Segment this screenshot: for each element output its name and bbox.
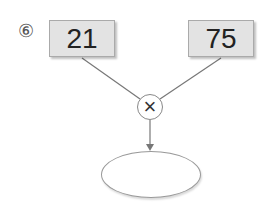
right-operand-box: 75: [188, 20, 254, 57]
multiply-operator-icon: ×: [137, 94, 163, 120]
answer-ellipse[interactable]: [101, 151, 201, 198]
left-operand-box: 21: [49, 20, 115, 57]
problem-number: ⑥: [16, 21, 36, 41]
arrow-down-icon: [146, 144, 154, 151]
